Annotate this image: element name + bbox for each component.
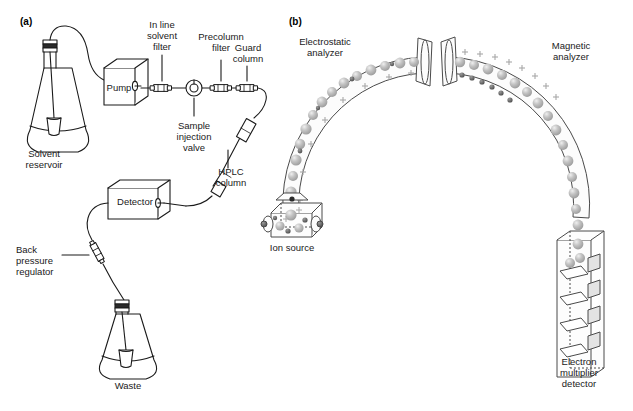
- back-pressure-regulator-glyph: [89, 240, 106, 264]
- source-to-analyzer-inlet: [276, 193, 308, 202]
- tube-detector-to-bpr: [87, 203, 108, 240]
- label-guard-column: Guard column: [222, 42, 274, 64]
- label-ion-source: Ion source: [254, 242, 330, 253]
- label-in-line-solvent-filter: In line solvent filter: [132, 19, 192, 52]
- panel-label-a: (a): [20, 16, 32, 27]
- solvent-reservoir-glyph: [27, 40, 88, 152]
- mass-spectrometer-glyph: [261, 37, 604, 377]
- label-back-pressure-regulator: Back pressure regulator: [16, 244, 78, 277]
- label-electron-multiplier-detector: Electron multiplier detector: [548, 356, 610, 389]
- tube-bpr-to-waste: [103, 264, 124, 300]
- tube-column-to-detector: [186, 196, 212, 206]
- label-waste: Waste: [104, 380, 152, 391]
- panel-label-b: (b): [289, 16, 302, 27]
- sample-injection-valve-glyph: [186, 80, 202, 96]
- label-hplc-column: HPLC column: [206, 166, 256, 188]
- label-detector: Detector: [110, 196, 160, 207]
- label-sample-injection-valve: Sample injection valve: [164, 120, 224, 153]
- precolumn-filter-glyph: [211, 85, 232, 92]
- label-magnetic-analyzer: Magnetic analyzer: [536, 40, 606, 62]
- label-pump: Pump: [104, 82, 134, 93]
- in-line-solvent-filter-glyph: [151, 85, 172, 92]
- label-solvent-reservoir: Solvent reservoir: [0, 148, 88, 170]
- tube-guard-to-column: [254, 88, 266, 118]
- waste-flask-glyph: [99, 300, 156, 379]
- guard-column-glyph: [237, 85, 258, 92]
- mag-entrance-flare: [441, 37, 457, 86]
- label-electrostatic-analyzer: Electrostatic analyzer: [286, 36, 364, 58]
